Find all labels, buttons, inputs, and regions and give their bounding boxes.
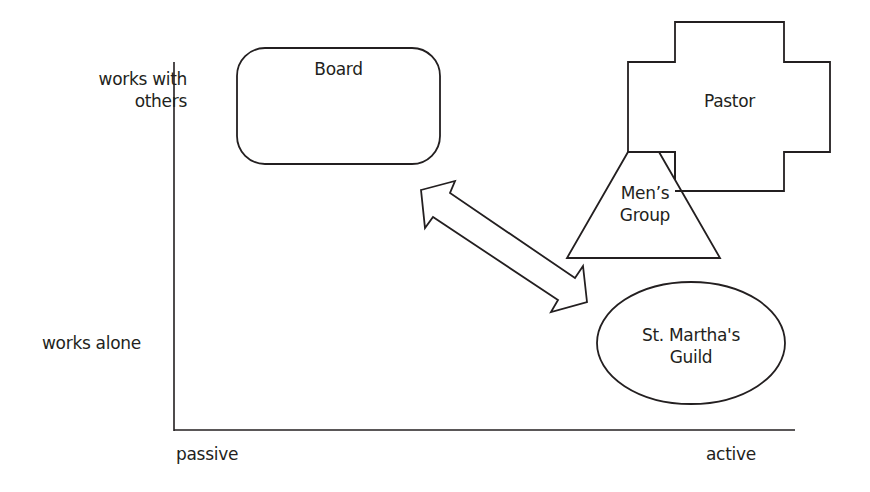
st-marthas-guild-label-line2: Guild: [606, 346, 776, 368]
x-axis-left-label: passive: [176, 443, 238, 465]
mens-group-label-line2: Group: [590, 204, 700, 226]
y-axis-bottom-label: works alone: [42, 332, 141, 354]
mens-group-label-line1: Men’s: [590, 182, 700, 204]
board-label: Board: [237, 58, 440, 80]
y-axis-top-label-line2: others: [99, 90, 187, 112]
pastor-label: Pastor: [675, 90, 784, 112]
x-axis-right-label: active: [706, 443, 756, 465]
mens-group-label: Men’s Group: [590, 182, 700, 226]
double-arrow-icon: [421, 181, 587, 312]
y-axis-top-label-line1: works with: [99, 68, 187, 90]
st-marthas-guild-label: St. Martha's Guild: [606, 324, 776, 368]
st-marthas-guild-label-line1: St. Martha's: [606, 324, 776, 346]
y-axis-top-label: works with others: [99, 68, 187, 112]
